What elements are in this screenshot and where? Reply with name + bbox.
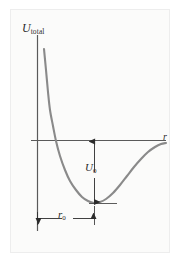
potential-energy-figure: Utotal r U0 r0: [0, 0, 180, 262]
x-axis-symbol: r: [163, 131, 167, 142]
equilibrium-subscript: 0: [62, 214, 66, 222]
y-axis-subscript: total: [31, 27, 45, 36]
equilibrium-separation-label: r0: [58, 209, 66, 220]
well-depth-label: U0: [85, 162, 96, 173]
x-axis-label: r: [163, 132, 167, 142]
potential-energy-curve: [44, 49, 166, 203]
potential-curve-plot: [0, 0, 180, 262]
y-axis-label: Utotal: [22, 22, 45, 34]
well-depth-symbol: U: [85, 161, 93, 173]
y-axis-symbol: U: [22, 21, 31, 35]
well-depth-subscript: 0: [93, 167, 97, 175]
